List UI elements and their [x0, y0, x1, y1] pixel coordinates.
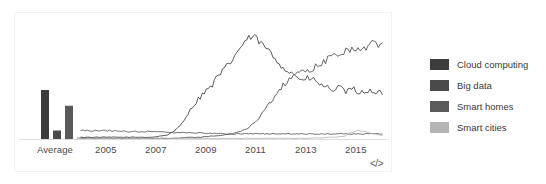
trend-line: [81, 40, 382, 138]
legend-swatch-icon: [430, 59, 449, 70]
x-tick-2013: 2013: [295, 144, 317, 155]
x-tick-2011: 2011: [245, 144, 266, 155]
legend-item-label: Big data: [457, 80, 492, 91]
average-bar: [65, 106, 73, 140]
trend-line: [81, 35, 382, 138]
legend-item[interactable]: Smart homes: [430, 97, 542, 115]
trend-lines-group: [81, 35, 382, 139]
x-tick-2015: 2015: [345, 144, 367, 155]
x-tick-2005: 2005: [95, 144, 117, 155]
legend-item-label: Cloud computing: [457, 59, 528, 70]
chart-panel: Average 2005 2007 2009 2011 2013 2015 </…: [14, 12, 392, 172]
legend-item[interactable]: Smart cities: [430, 118, 542, 136]
average-bar: [53, 131, 61, 140]
x-tick-2009: 2009: [195, 144, 217, 155]
legend-swatch-icon: [430, 101, 449, 112]
legend-item[interactable]: Big data: [430, 76, 542, 94]
embed-code-icon[interactable]: </>: [370, 158, 383, 169]
average-bar: [41, 90, 49, 140]
legend-swatch-icon: [430, 80, 449, 91]
legend-item-label: Smart cities: [457, 122, 507, 133]
legend-item-label: Smart homes: [457, 101, 514, 112]
chart-legend: Cloud computing Big data Smart homes Sma…: [430, 55, 542, 139]
average-bars-group: [41, 90, 85, 140]
trends-chart-widget: Average 2005 2007 2009 2011 2013 2015 </…: [0, 0, 546, 184]
x-tick-average: Average: [37, 144, 73, 155]
trend-line: [81, 130, 382, 135]
x-tick-2007: 2007: [145, 144, 167, 155]
legend-swatch-icon: [430, 122, 449, 133]
legend-item[interactable]: Cloud computing: [430, 55, 542, 73]
